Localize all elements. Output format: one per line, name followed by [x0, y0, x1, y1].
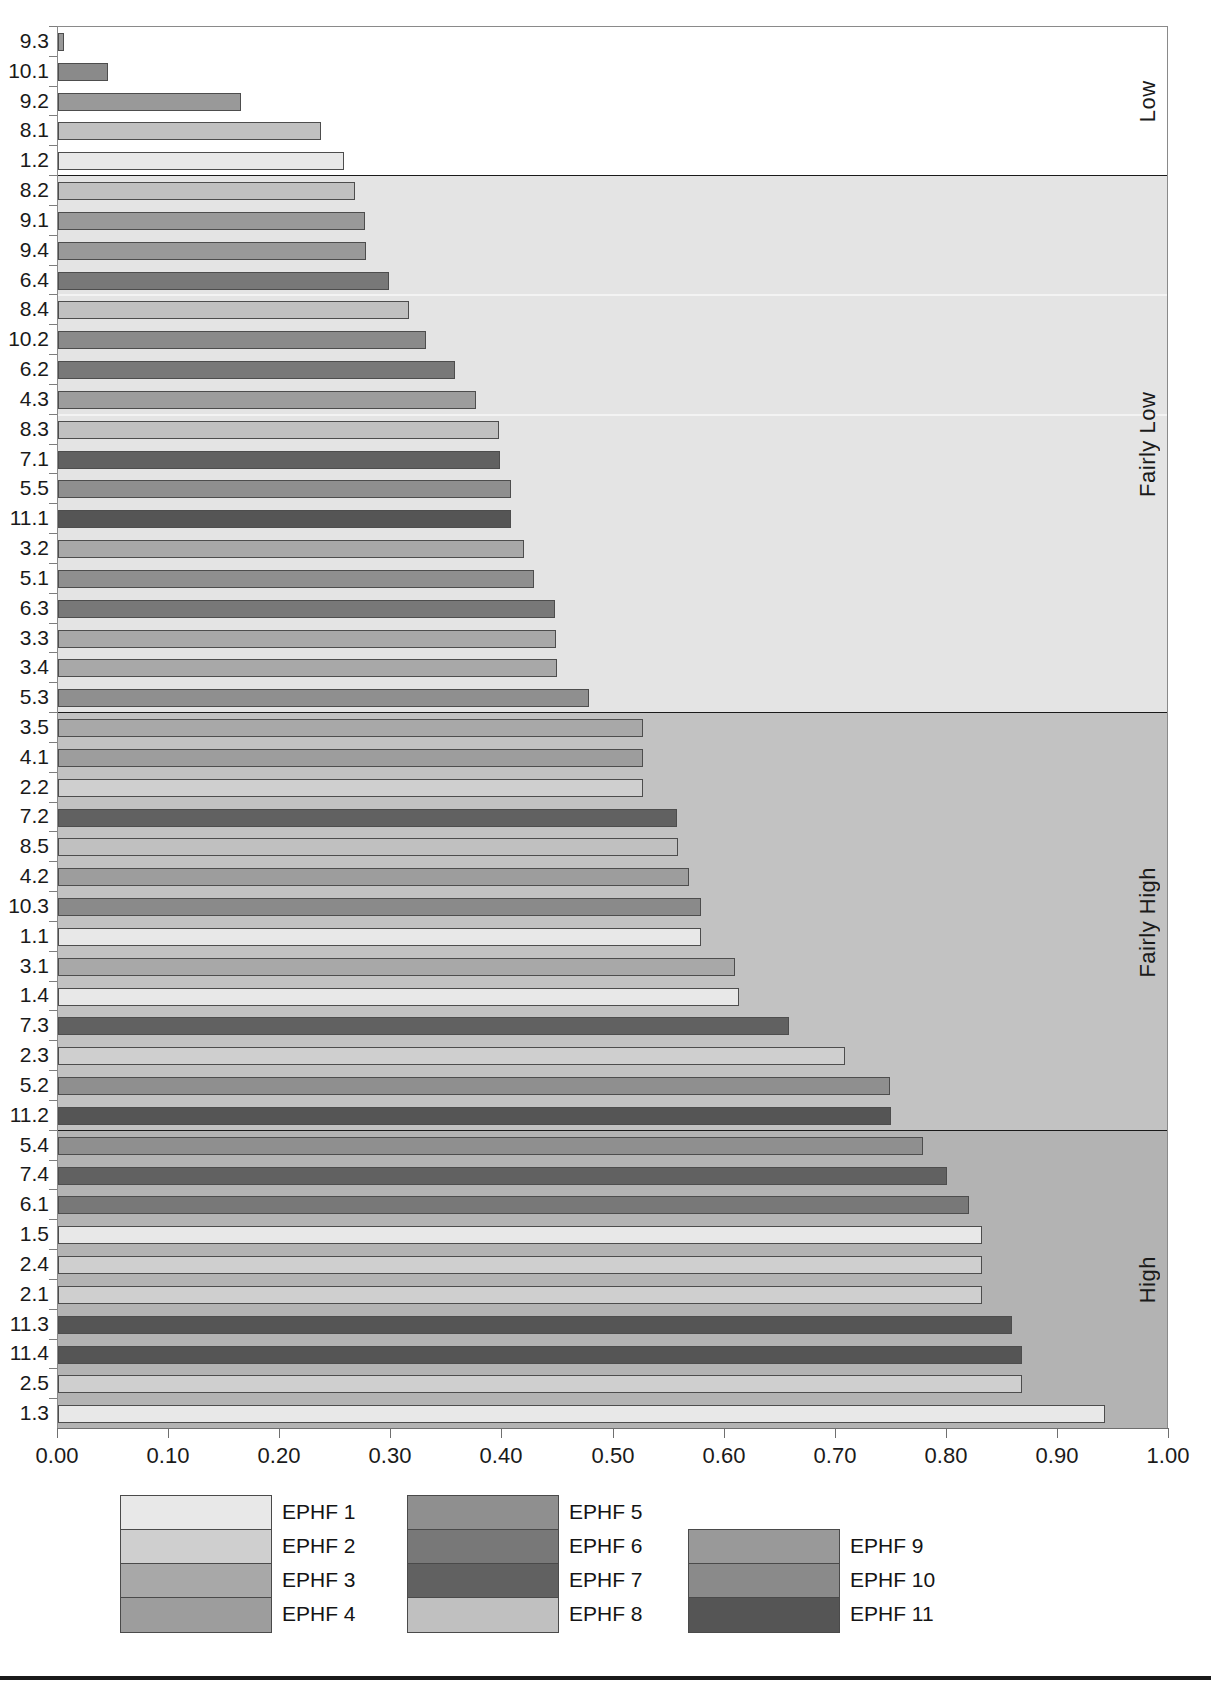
y-axis-tick	[49, 1219, 57, 1220]
y-axis-tick	[49, 1309, 57, 1310]
bar-row	[58, 445, 1167, 475]
bar-row	[58, 952, 1167, 982]
bar-8.5	[58, 838, 678, 856]
bar-row	[58, 1131, 1167, 1161]
y-axis-tick	[49, 324, 57, 325]
y-axis-tick	[49, 1279, 57, 1280]
top-faint-artifact	[180, 0, 980, 18]
y-axis-tick	[49, 235, 57, 236]
y-axis-tick	[49, 473, 57, 474]
y-axis-tick	[49, 623, 57, 624]
y-axis-tick-label: 10.3	[8, 895, 49, 916]
bar-row	[58, 1399, 1167, 1429]
y-axis-tick-label: 6.3	[20, 597, 49, 618]
y-axis-tick	[49, 861, 57, 862]
bar-row	[58, 116, 1167, 146]
bar-row	[58, 743, 1167, 773]
y-axis-tick-label: 1.4	[20, 984, 49, 1005]
x-axis-tick-label: 0.40	[480, 1443, 523, 1469]
y-axis-tick-label: 2.4	[20, 1253, 49, 1274]
x-axis-tick-label: 0.20	[258, 1443, 301, 1469]
y-axis-tick-label: 4.1	[20, 746, 49, 767]
bar-8.2	[58, 182, 355, 200]
bar-row	[58, 1369, 1167, 1399]
bar-row	[58, 325, 1167, 355]
y-axis-tick-label: 6.2	[20, 358, 49, 379]
bar-rows	[58, 27, 1167, 1427]
y-axis-tick	[49, 831, 57, 832]
bar-row	[58, 1220, 1167, 1250]
y-axis-tick	[49, 981, 57, 982]
y-axis-tick-label: 4.3	[20, 388, 49, 409]
y-axis-tick	[49, 1368, 57, 1369]
x-axis-tick-label: 0.90	[1036, 1443, 1079, 1469]
bar-row	[58, 922, 1167, 952]
bar-10.1	[58, 63, 108, 81]
bar-chart-figure: LowFairly LowFairly HighHigh 9.310.19.28…	[0, 0, 1211, 1687]
y-axis-tick	[49, 1070, 57, 1071]
y-axis-tick	[49, 503, 57, 504]
x-axis-tick	[724, 1428, 725, 1438]
bar-1.1	[58, 928, 701, 946]
y-axis-tick-label: 1.2	[20, 149, 49, 170]
bar-3.2	[58, 540, 524, 558]
legend-swatch-stack	[120, 1495, 272, 1633]
y-axis-tick	[49, 652, 57, 653]
y-axis-tick-label: 11.2	[10, 1104, 49, 1125]
bar-4.1	[58, 749, 643, 767]
y-axis-tick-label: 3.4	[20, 656, 49, 677]
y-axis-tick-label: 2.3	[20, 1044, 49, 1065]
y-axis-tick	[49, 593, 57, 594]
y-axis-tick-label: 6.4	[20, 269, 49, 290]
plot-area: LowFairly LowFairly HighHigh	[57, 26, 1168, 1428]
y-axis-tick	[49, 742, 57, 743]
bar-row	[58, 504, 1167, 534]
bar-8.4	[58, 301, 409, 319]
legend-label-ephf-7: EPHF 7	[569, 1563, 643, 1597]
y-axis-tick-label: 9.4	[20, 239, 49, 260]
y-axis-tick	[49, 1189, 57, 1190]
y-axis-tick-label: 3.2	[20, 537, 49, 558]
bar-9.3	[58, 33, 64, 51]
bar-row	[58, 57, 1167, 87]
band-title-fairly-low: Fairly Low	[1135, 176, 1161, 713]
y-axis-tick	[49, 1130, 57, 1131]
y-axis-tick-label: 9.2	[20, 90, 49, 111]
y-axis-tick-label: 3.1	[20, 955, 49, 976]
legend-swatch-ephf-9	[689, 1530, 839, 1564]
x-axis-tick-label: 0.60	[703, 1443, 746, 1469]
y-axis-tick-label: 11.1	[10, 507, 49, 528]
bar-1.4	[58, 988, 739, 1006]
bar-11.2	[58, 1107, 891, 1125]
y-axis-tick-label: 10.2	[8, 328, 49, 349]
band-title-high: High	[1135, 1131, 1161, 1429]
bar-row	[58, 87, 1167, 117]
bar-3.5	[58, 719, 643, 737]
bar-7.3	[58, 1017, 789, 1035]
bar-row	[58, 236, 1167, 266]
bar-row	[58, 27, 1167, 57]
bar-5.4	[58, 1137, 923, 1155]
legend: EPHF 1EPHF 2EPHF 3EPHF 4EPHF 5EPHF 6EPHF…	[0, 1495, 1211, 1670]
bar-row	[58, 146, 1167, 176]
legend-swatch-ephf-1	[121, 1496, 271, 1530]
bar-8.1	[58, 122, 321, 140]
y-axis-tick-label: 8.3	[20, 418, 49, 439]
y-axis-tick-label: 11.3	[10, 1313, 49, 1334]
legend-swatch-ephf-8	[408, 1598, 558, 1632]
bar-10.2	[58, 331, 426, 349]
y-axis-tick-label: 5.1	[20, 567, 49, 588]
y-axis-tick	[49, 772, 57, 773]
y-axis-tick-label: 8.4	[20, 298, 49, 319]
y-axis-tick-label: 10.1	[8, 60, 49, 81]
bar-2.3	[58, 1047, 845, 1065]
bar-row	[58, 1011, 1167, 1041]
bar-row	[58, 1071, 1167, 1101]
legend-label-ephf-1: EPHF 1	[282, 1495, 356, 1529]
bar-row	[58, 564, 1167, 594]
legend-label-stack: EPHF 1EPHF 2EPHF 3EPHF 4	[282, 1495, 356, 1631]
legend-swatch-ephf-6	[408, 1530, 558, 1564]
bar-2.4	[58, 1256, 982, 1274]
legend-swatch-ephf-3	[121, 1564, 271, 1598]
y-axis-tick	[49, 563, 57, 564]
